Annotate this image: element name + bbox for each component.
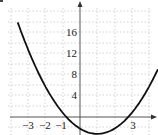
y-tick-label: 16: [66, 26, 78, 38]
x-tick-label: −2: [39, 119, 51, 131]
x-axis-arrow-icon: [151, 115, 157, 120]
y-tick-label: 8: [72, 68, 78, 80]
y-axis-arrow-icon: [78, 1, 83, 7]
x-tick-label: −1: [55, 119, 67, 131]
x-tick-label: −3: [22, 119, 34, 131]
y-tick-label: 12: [66, 47, 77, 59]
y-tick-label: 4: [72, 89, 78, 101]
x-tick-label: 3: [130, 119, 136, 131]
parabola-chart: −3 −2 −1 3 4 8 12 16: [0, 0, 158, 135]
